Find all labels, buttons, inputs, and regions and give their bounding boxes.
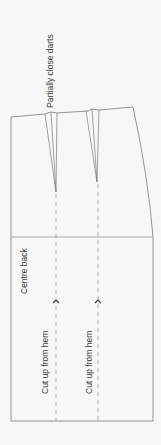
dart-2-inner (92, 109, 97, 182)
waistline (11, 107, 133, 117)
dart-1-inner (51, 112, 56, 192)
pattern-outline (11, 107, 153, 421)
skirt-pattern-diagram: Partially close darts Centre back Cut up… (0, 0, 161, 445)
side-seam (133, 107, 153, 421)
darts-note-label: Partially close darts (45, 34, 55, 108)
cut-arrows (53, 300, 101, 303)
centre-back-label: Centre back (19, 247, 29, 294)
darts (45, 109, 99, 192)
diagram-svg: Partially close darts Centre back Cut up… (0, 0, 161, 445)
cut-line-2-label: Cut up from hem (84, 331, 94, 394)
arrow-up-icon (95, 300, 101, 303)
cut-line-1-label: Cut up from hem (40, 331, 50, 394)
